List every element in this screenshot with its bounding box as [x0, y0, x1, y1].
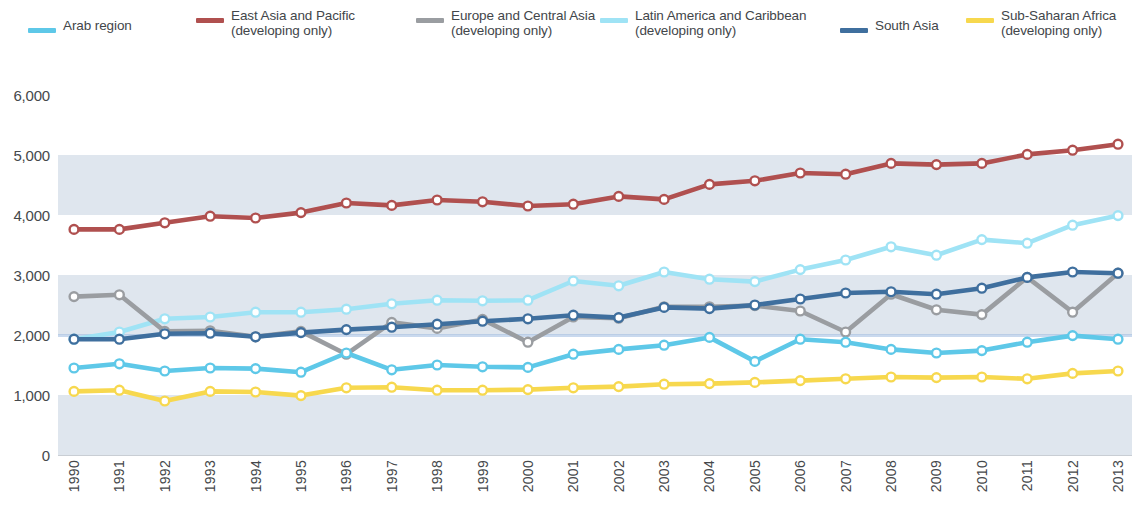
series-point-marker: [297, 308, 306, 317]
series-point-marker: [478, 386, 487, 395]
series-point-marker: [387, 383, 396, 392]
x-axis-rule: [58, 455, 1132, 456]
series-point-marker: [1068, 369, 1077, 378]
series-point-marker: [977, 284, 986, 293]
series-point-marker: [932, 160, 941, 169]
legend-item[interactable]: Sub-Saharan Africa (developing only): [966, 8, 1116, 38]
series-point-marker: [887, 345, 896, 354]
series-point-marker: [796, 295, 805, 304]
series-point-marker: [750, 176, 759, 185]
series-point-marker: [297, 328, 306, 337]
series-point-marker: [206, 313, 215, 322]
legend-swatch-icon: [840, 28, 868, 33]
series-point-marker: [524, 363, 533, 372]
x-axis-tick-label: 1995: [293, 460, 309, 492]
series-point-marker: [206, 329, 215, 338]
series-point-marker: [796, 169, 805, 178]
series-point-marker: [433, 196, 442, 205]
series-point-marker: [1023, 150, 1032, 159]
x-axis-tick-label: 2006: [792, 460, 808, 492]
series-point-marker: [1068, 268, 1077, 277]
series-point-marker: [750, 357, 759, 366]
series-point-marker: [932, 251, 941, 260]
series-point-marker: [251, 388, 260, 397]
series-point-marker: [841, 328, 850, 337]
series-point-marker: [614, 345, 623, 354]
series-point-marker: [524, 385, 533, 394]
legend-item[interactable]: South Asia: [840, 18, 939, 33]
series-point-marker: [841, 289, 850, 298]
series-point-marker: [705, 333, 714, 342]
series-point-marker: [160, 367, 169, 376]
series-point-marker: [115, 290, 124, 299]
series-point-marker: [206, 387, 215, 396]
series-point-marker: [660, 195, 669, 204]
x-axis-tick-label: 2008: [883, 460, 899, 492]
series-point-marker: [251, 308, 260, 317]
series-point-marker: [569, 350, 578, 359]
series-point-marker: [342, 305, 351, 314]
y-axis-tick-label: 3,000: [13, 267, 50, 284]
legend-swatch-icon: [416, 18, 444, 23]
legend-item-label: Latin America and Caribbean (developing …: [635, 8, 806, 38]
series-line: [74, 371, 1118, 401]
series-point-marker: [841, 338, 850, 347]
x-axis-tick-label: 1999: [475, 460, 491, 492]
series-point-marker: [660, 341, 669, 350]
series-point-marker: [660, 303, 669, 312]
series-point-marker: [1023, 239, 1032, 248]
series-point-marker: [1114, 335, 1123, 344]
series-point-marker: [297, 208, 306, 217]
series-point-marker: [1114, 211, 1123, 220]
series-point-marker: [297, 368, 306, 377]
series-point-marker: [297, 391, 306, 400]
series-point-marker: [1023, 338, 1032, 347]
legend-item[interactable]: Latin America and Caribbean (developing …: [600, 8, 806, 38]
legend-swatch-icon: [196, 18, 224, 23]
y-axis-tick-label: 1,000: [13, 387, 50, 404]
series-point-marker: [1068, 146, 1077, 155]
y-axis-tick-label: 2,000: [13, 327, 50, 344]
x-axis-tick-label: 2002: [611, 460, 627, 492]
series-point-marker: [1068, 308, 1077, 317]
series-line: [74, 144, 1118, 229]
series-point-marker: [160, 329, 169, 338]
legend-item[interactable]: East Asia and Pacific (developing only): [196, 8, 355, 38]
x-axis-tick-label: 2000: [520, 460, 536, 492]
legend-item-label: South Asia: [875, 18, 939, 33]
legend-item-label: Arab region: [63, 18, 132, 33]
series-point-marker: [841, 374, 850, 383]
series-group: [70, 367, 1123, 406]
series-point-marker: [569, 383, 578, 392]
x-axis-tick-label: 1993: [202, 460, 218, 492]
series-point-marker: [1068, 221, 1077, 230]
x-axis-tick-label: 2004: [701, 460, 717, 492]
series-point-marker: [524, 296, 533, 305]
x-axis-tick-label: 2007: [838, 460, 854, 492]
series-point-marker: [115, 335, 124, 344]
series-point-marker: [387, 299, 396, 308]
series-point-marker: [614, 192, 623, 201]
x-axis-tick-label: 2005: [747, 460, 763, 492]
series-point-marker: [796, 335, 805, 344]
series-point-marker: [1114, 269, 1123, 278]
series-point-marker: [705, 304, 714, 313]
series-point-marker: [887, 159, 896, 168]
series-point-marker: [977, 346, 986, 355]
x-axis-tick-label: 1998: [429, 460, 445, 492]
series-point-marker: [796, 307, 805, 316]
series-point-marker: [887, 242, 896, 251]
x-axis-tick-label: 2001: [565, 460, 581, 492]
series-point-marker: [70, 364, 79, 373]
series-point-marker: [841, 170, 850, 179]
series-point-marker: [342, 349, 351, 358]
legend-item-label: East Asia and Pacific (developing only): [231, 8, 355, 38]
legend-item[interactable]: Arab region: [28, 18, 132, 33]
series-point-marker: [1114, 140, 1123, 149]
series-point-marker: [977, 373, 986, 382]
series-point-marker: [342, 199, 351, 208]
series-point-marker: [977, 235, 986, 244]
series-point-marker: [977, 159, 986, 168]
legend-item[interactable]: Europe and Central Asia (developing only…: [416, 8, 595, 38]
series-group: [70, 331, 1123, 376]
